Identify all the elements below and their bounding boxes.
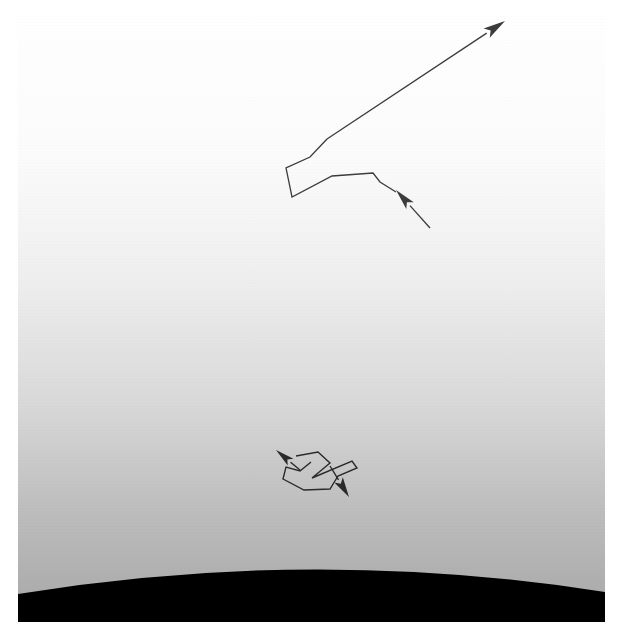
figure-root <box>0 0 618 632</box>
figure-canvas <box>0 0 618 632</box>
atmosphere-gradient <box>18 2 605 622</box>
